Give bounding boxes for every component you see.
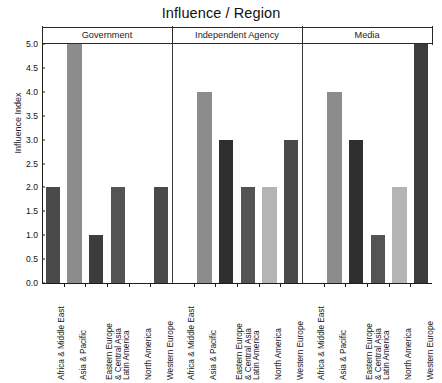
x-axis-tick-mark bbox=[237, 283, 238, 287]
x-axis-labels-layer: Africa & Middle EastAsia & PacificEaster… bbox=[0, 0, 442, 383]
x-axis-category-label-line: Asia & Pacific bbox=[79, 288, 88, 380]
x-axis-category-label: Latin America bbox=[252, 288, 263, 380]
x-axis-category-label-line: Eastern Europe bbox=[235, 288, 244, 380]
x-axis-category-label-line: North America bbox=[274, 288, 283, 380]
x-axis-tick-mark bbox=[194, 283, 195, 287]
x-axis-category-label: Western Europe bbox=[166, 288, 177, 380]
x-axis-category-label-line: Latin America bbox=[122, 288, 131, 380]
x-axis-tick-mark bbox=[280, 283, 281, 287]
x-axis-category-label-line: Africa & Middle East bbox=[317, 288, 326, 380]
x-axis-category-label: Africa & Middle East bbox=[187, 288, 198, 380]
x-axis-category-label: North America bbox=[404, 288, 415, 380]
x-axis-category-label: Latin America bbox=[382, 288, 393, 380]
x-axis-tick-mark bbox=[107, 283, 108, 287]
x-axis-category-label-line: North America bbox=[404, 288, 413, 380]
x-axis-category-label: Latin America bbox=[122, 288, 133, 380]
x-axis-category-label: North America bbox=[144, 288, 155, 380]
x-axis-tick-mark bbox=[410, 283, 411, 287]
x-axis-category-label-line: Latin America bbox=[382, 288, 391, 380]
x-axis-category-label-line: North America bbox=[144, 288, 153, 380]
x-axis-tick-mark bbox=[324, 283, 325, 287]
x-axis-category-label: Western Europe bbox=[296, 288, 307, 380]
x-axis-category-label-line: Asia & Pacific bbox=[209, 288, 218, 380]
x-axis-tick-mark bbox=[85, 283, 86, 287]
x-axis-category-label: Africa & Middle East bbox=[57, 288, 68, 380]
x-axis-tick-mark bbox=[345, 283, 346, 287]
x-axis-tick-mark bbox=[215, 283, 216, 287]
x-axis-category-label-line: Africa & Middle East bbox=[57, 288, 66, 380]
x-axis-tick-mark bbox=[259, 283, 260, 287]
x-axis-category-label: Asia & Pacific bbox=[79, 288, 90, 380]
x-axis-category-label: Asia & Pacific bbox=[209, 288, 220, 380]
x-axis-tick-mark bbox=[129, 283, 130, 287]
x-axis-category-label-line: Latin America bbox=[252, 288, 261, 380]
x-axis-category-label-line: Eastern Europe bbox=[365, 288, 374, 380]
x-axis-category-label: North America bbox=[274, 288, 285, 380]
x-axis-category-label: Africa & Middle East bbox=[317, 288, 328, 380]
x-axis-tick-mark bbox=[367, 283, 368, 287]
x-axis-category-label-line: Western Europe bbox=[166, 288, 175, 380]
x-axis-tick-mark bbox=[64, 283, 65, 287]
x-axis-category-label: Asia & Pacific bbox=[339, 288, 350, 380]
x-axis-category-label-line: Eastern Europe bbox=[105, 288, 114, 380]
x-axis-category-label-line: Western Europe bbox=[296, 288, 305, 380]
x-axis-category-label-line: Western Europe bbox=[426, 288, 435, 380]
x-axis-category-label: Western Europe bbox=[426, 288, 437, 380]
x-axis-category-label-line: Africa & Middle East bbox=[187, 288, 196, 380]
influence-region-chart: Influence / Region Influence Index Gover… bbox=[0, 0, 442, 383]
x-axis-tick-mark bbox=[150, 283, 151, 287]
x-axis-category-label-line: Asia & Pacific bbox=[339, 288, 348, 380]
x-axis-tick-mark bbox=[389, 283, 390, 287]
